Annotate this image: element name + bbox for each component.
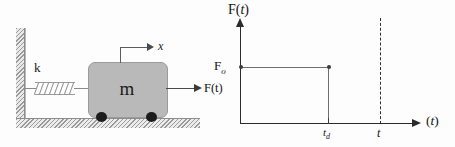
wheel-left [96,112,107,122]
ground-hatch [16,118,200,128]
x-axis [240,123,414,124]
y-axis [240,26,241,124]
observation-time-label: t [377,126,380,141]
pulse-falling-edge-segment [328,67,329,124]
observation-time-dashed-line [380,18,381,124]
y-axis-label-prefix: F( [228,2,240,17]
spring-element [25,81,91,97]
amplitude-tick-label: Fo [214,58,226,76]
displacement-stem [120,47,121,63]
force-time-plot: F(t) (t) Fo td t [228,0,455,147]
displacement-label: x [158,39,163,54]
wheel-right [146,112,157,122]
duration-tick-mark [328,118,329,124]
y-axis-label: F(t) [228,2,249,18]
pulse-start-point [239,65,243,69]
spring-mass-diagram: k m x F(t) [0,0,228,147]
spring-coil [35,82,75,95]
fixed-wall-edge [24,28,25,124]
figure-canvas: k m x F(t) F(t) (t) Fo td t [0,0,455,147]
pulse-end-point [327,65,331,69]
duration-tick-label: td [323,126,330,141]
y-axis-label-suffix: ) [244,2,249,17]
mass-label: m [88,62,166,116]
spring-constant-label: k [34,60,41,76]
duration-tick-subscript: d [326,132,330,141]
displacement-arm [120,47,148,48]
pulse-plateau-segment [241,67,329,68]
force-arrow-shaft [166,88,195,89]
force-arrow-icon [194,84,202,92]
applied-force-label: F(t) [204,81,223,96]
displacement-arrow-icon [147,43,154,51]
amplitude-tick-subscript: o [221,66,226,76]
x-axis-arrow-icon [412,119,421,127]
y-axis-arrow-icon [236,18,244,27]
x-axis-label: (t) [426,113,439,129]
x-axis-label-suffix: ) [434,113,439,128]
